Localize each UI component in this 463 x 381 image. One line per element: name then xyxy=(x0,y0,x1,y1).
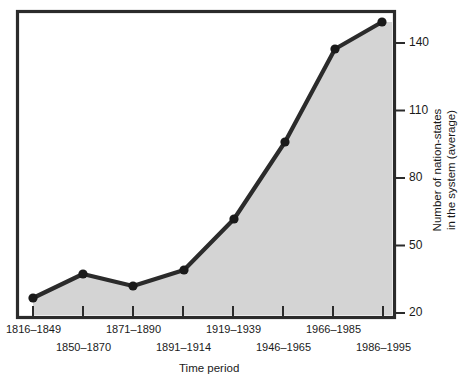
y-axis-title-line1: Number of nation-states xyxy=(431,75,445,265)
y-tick-label: 20 xyxy=(409,306,422,319)
area-fill xyxy=(33,22,392,315)
y-tick-label: 80 xyxy=(409,171,422,184)
data-point xyxy=(28,293,37,302)
x-tick-label-1986-1995: 1986–1995 xyxy=(356,341,411,354)
x-tick-label-1919-1939: 1919–1939 xyxy=(206,323,261,336)
data-point xyxy=(330,44,339,53)
chart-figure: 140 110 80 50 20 1816–1849 1850–1870 187… xyxy=(0,0,463,381)
y-tick-label: 110 xyxy=(409,104,428,117)
y-tick-label: 50 xyxy=(409,239,422,252)
y-tick-label: 140 xyxy=(409,36,429,49)
x-tick-label-1816-1849: 1816–1849 xyxy=(6,323,61,336)
y-axis-title: Number of nation-states in the system (a… xyxy=(431,75,458,265)
data-point xyxy=(128,281,137,290)
x-tick-label-1871-1890: 1871–1890 xyxy=(106,323,161,336)
x-axis-title: Time period xyxy=(179,362,239,375)
x-tick-label-1946-1965: 1946–1965 xyxy=(256,341,311,354)
x-tick-label-1966-1985: 1966–1985 xyxy=(306,323,361,336)
data-point xyxy=(229,214,238,223)
y-axis-title-line2: in the system (average) xyxy=(445,75,459,265)
data-point xyxy=(179,265,188,274)
x-tick-label-1891-1914: 1891–1914 xyxy=(156,341,211,354)
data-point xyxy=(78,269,87,278)
data-point xyxy=(280,137,289,146)
x-tick-label-1850-1870: 1850–1870 xyxy=(56,341,111,354)
data-point xyxy=(377,17,386,26)
